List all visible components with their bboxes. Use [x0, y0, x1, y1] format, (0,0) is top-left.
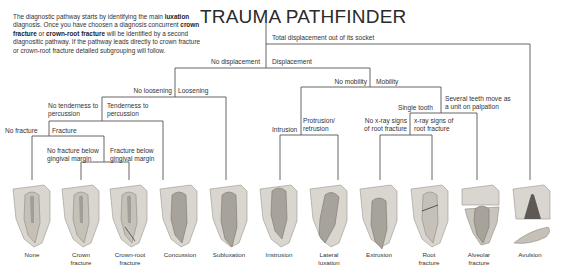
label-fracture: Fracture — [52, 127, 77, 135]
tooth-avulsion-icon — [510, 183, 554, 249]
tooth-alveolar-fracture-icon — [459, 183, 503, 249]
tooth-crown-fracture-icon — [59, 183, 103, 249]
label-no-fracture-below-gingival: No fracture belowgingival margin — [47, 147, 99, 163]
label-loosening: Loosening — [178, 87, 208, 95]
label-fracture-below-gingival: Fracture belowgingival margin — [110, 147, 154, 163]
tooth-intrusion-icon — [257, 183, 301, 249]
label-total-displacement: Total displacement out of its socket — [272, 34, 374, 42]
tooth-lateral-luxation-icon — [307, 183, 351, 249]
label-displacement: Displacement — [272, 58, 312, 66]
label-protrusion-retrusion: Protrusion/retrusion — [303, 117, 335, 133]
tooth-crown-root-fracture-icon — [107, 183, 151, 249]
tooth-concussion-icon — [157, 183, 201, 249]
label-intrusion: Intrusion — [272, 126, 297, 134]
label-no-fracture: No fracture — [5, 127, 38, 135]
label-no-displacement: No displacement — [190, 58, 260, 66]
label-no-loosening: No loosening — [120, 87, 172, 95]
label-several-teeth: Several teeth move asa unit on palpation — [445, 95, 511, 111]
tooth-extrusion-icon — [357, 183, 401, 249]
label-no-tenderness: No tenderness topercussion — [48, 102, 98, 118]
label-mobility: Mobility — [376, 78, 398, 86]
label-single-tooth: Single tooth — [398, 104, 433, 112]
tooth-root-fracture-icon — [408, 183, 452, 249]
label-no-xray-signs: No x-ray signsof root fracture — [350, 117, 407, 133]
tooth-subluxation-icon — [207, 183, 251, 249]
diagnosis-avulsion: Avulsion — [500, 251, 560, 259]
label-xray-signs: x-ray signs ofroot fracture — [414, 117, 453, 133]
tooth-none-icon — [10, 183, 54, 249]
label-tenderness: Tenderness topercussion — [107, 102, 148, 118]
label-no-mobility: No mobility — [320, 78, 367, 86]
